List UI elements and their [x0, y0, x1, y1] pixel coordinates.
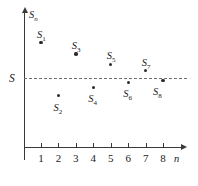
point-label-S6: S6: [123, 88, 132, 99]
x-axis-label: n: [174, 153, 179, 164]
x-tick-4: [93, 143, 94, 148]
limit-label: S: [9, 72, 15, 84]
x-tick-label-5: 5: [103, 152, 119, 165]
data-point-S8: [161, 79, 164, 82]
point-label-S8: S8: [153, 86, 162, 97]
x-axis: [24, 147, 182, 148]
point-label-S5: S5: [107, 50, 116, 61]
data-point-S4: [92, 86, 95, 89]
x-tick-label-1: 1: [33, 152, 49, 165]
point-label-S3: S3: [72, 40, 81, 51]
y-axis-label: Sn: [29, 9, 38, 20]
data-point-S2: [57, 94, 60, 97]
x-tick-1: [41, 143, 42, 148]
point-label-S4: S4: [88, 93, 97, 104]
x-tick-label-6: 6: [120, 152, 136, 165]
x-tick-8: [163, 143, 164, 148]
y-axis-arrow-icon: [22, 7, 28, 13]
x-tick-label-3: 3: [68, 152, 84, 165]
y-axis: [24, 12, 25, 160]
x-tick-6: [128, 143, 129, 148]
x-tick-label-8: 8: [155, 152, 171, 165]
x-tick-2: [58, 143, 59, 148]
x-tick-label-4: 4: [85, 152, 101, 165]
point-label-S2: S2: [53, 102, 62, 113]
point-label-S1: S1: [37, 29, 46, 40]
point-label-S7: S7: [142, 57, 151, 68]
sequence-convergence-plot: Sn n S 12345678 S1S2S3S4S5S6S7S8: [0, 0, 198, 186]
x-tick-3: [76, 143, 77, 148]
x-axis-arrow-icon: [181, 144, 187, 150]
x-tick-label-2: 2: [50, 152, 66, 165]
x-tick-7: [146, 143, 147, 148]
x-tick-5: [111, 143, 112, 148]
data-point-S6: [127, 81, 130, 84]
x-tick-label-7: 7: [138, 152, 154, 165]
